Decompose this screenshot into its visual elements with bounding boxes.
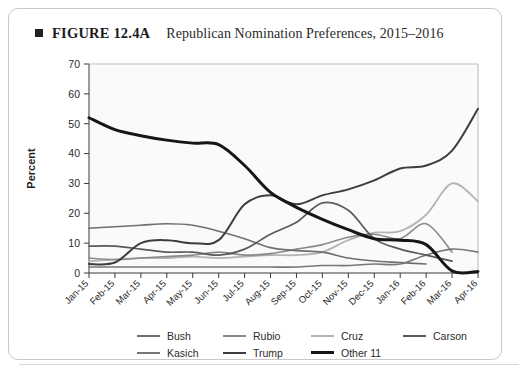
- legend-swatch-icon: [311, 335, 334, 337]
- x-tick-label: Dec-15: [346, 278, 375, 307]
- legend-label: Other 11: [341, 347, 381, 359]
- legend-label: Trump: [253, 347, 283, 359]
- legend-label: Bush: [167, 330, 191, 342]
- y-tick-label: 40: [68, 147, 80, 159]
- y-tick-label: 70: [68, 58, 80, 70]
- legend-row: BushRubioCruzCarson: [137, 327, 477, 344]
- x-tick-label: Nov-15: [320, 278, 349, 307]
- legend-swatch-icon: [311, 351, 334, 354]
- legend-label: Kasich: [167, 347, 199, 359]
- x-tick-label: Mar-16: [424, 278, 453, 307]
- x-tick-label: Apr-16: [451, 278, 479, 306]
- legend-label: Cruz: [341, 330, 363, 342]
- legend-item-trump[interactable]: Trump: [223, 347, 311, 359]
- legend-item-kasich[interactable]: Kasich: [137, 347, 223, 359]
- legend-item-cruz[interactable]: Cruz: [311, 330, 403, 342]
- legend-divider: [19, 364, 519, 365]
- y-tick-label: 0: [74, 267, 80, 279]
- legend-swatch-icon: [223, 335, 246, 337]
- line-chart-svg: 010203040506070PercentJan-15Feb-15Mar-15…: [9, 9, 503, 361]
- legend-item-carson[interactable]: Carson: [403, 330, 483, 342]
- x-tick-label: Jan-16: [373, 278, 401, 306]
- x-tick-label: Feb-16: [398, 278, 427, 307]
- y-axis-title: Percent: [25, 148, 37, 189]
- x-tick-label: Jun-15: [192, 278, 220, 306]
- x-tick-label: Feb-15: [87, 278, 116, 307]
- x-tick-label: Jan-15: [62, 278, 90, 306]
- legend-swatch-icon: [403, 335, 426, 337]
- legend-swatch-icon: [223, 352, 246, 354]
- legend-swatch-icon: [137, 335, 160, 337]
- x-tick-label: Sep-15: [268, 278, 297, 307]
- y-tick-label: 10: [68, 237, 80, 249]
- figure-card: FIGURE 12.4A Republican Nomination Prefe…: [8, 8, 502, 360]
- x-tick-label: Mar-15: [113, 278, 142, 307]
- legend-label: Carson: [433, 330, 467, 342]
- y-tick-label: 60: [68, 88, 80, 100]
- x-tick-label: Oct-15: [296, 278, 324, 306]
- legend-swatch-icon: [137, 352, 160, 354]
- y-tick-label: 30: [68, 177, 80, 189]
- y-tick-label: 50: [68, 118, 80, 130]
- y-tick-label: 20: [68, 207, 80, 219]
- x-tick-label: Aug-15: [243, 278, 272, 307]
- chart-legend: BushRubioCruzCarsonKasichTrumpOther 11: [137, 327, 477, 361]
- legend-item-other-11[interactable]: Other 11: [311, 347, 403, 359]
- legend-label: Rubio: [253, 330, 280, 342]
- legend-item-bush[interactable]: Bush: [137, 330, 223, 342]
- legend-row: KasichTrumpOther 11: [137, 344, 477, 361]
- legend-item-rubio[interactable]: Rubio: [223, 330, 311, 342]
- x-tick-label: May-15: [164, 278, 194, 308]
- chart-plot-area: 010203040506070PercentJan-15Feb-15Mar-15…: [9, 9, 503, 361]
